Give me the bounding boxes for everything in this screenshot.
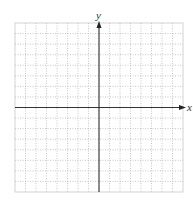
y-axis-label: y: [95, 9, 101, 21]
y-axis-arrow-icon: [97, 21, 102, 28]
coordinate-plane: x y: [0, 0, 193, 203]
x-axis-arrow-icon: [179, 105, 186, 110]
x-axis-label: x: [186, 101, 192, 113]
